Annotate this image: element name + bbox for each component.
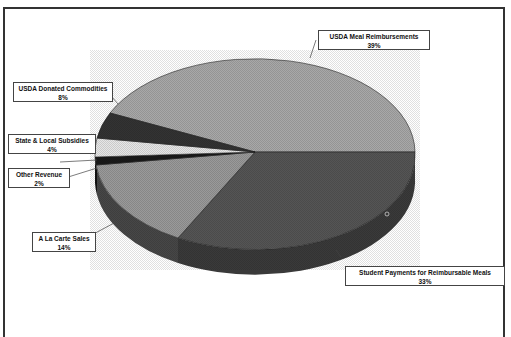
label-a-la-carte-sales: A La Carte Sales 14% xyxy=(32,232,96,252)
label-usda-meal-reimbursements: USDA Meal Reimbursements 39% xyxy=(318,30,430,50)
label-student-payments: Student Payments for Reimbursable Meals … xyxy=(345,266,505,286)
label-pct: 14% xyxy=(33,243,95,252)
label-name: State & Local Subsidies xyxy=(9,136,95,145)
label-pct: 39% xyxy=(319,41,429,50)
label-pct: 8% xyxy=(14,93,112,102)
label-state-local-subsidies: State & Local Subsidies 4% xyxy=(8,134,96,154)
label-pct: 33% xyxy=(346,277,504,286)
label-name: A La Carte Sales xyxy=(33,234,95,243)
label-name: Other Revenue xyxy=(9,170,69,179)
label-name: USDA Donated Commodities xyxy=(14,84,112,93)
label-name: Student Payments for Reimbursable Meals xyxy=(346,268,504,277)
label-pct: 4% xyxy=(9,145,95,154)
label-pct: 2% xyxy=(9,179,69,188)
label-usda-donated-commodities: USDA Donated Commodities 8% xyxy=(13,82,113,102)
label-other-revenue: Other Revenue 2% xyxy=(8,168,70,188)
label-name: USDA Meal Reimbursements xyxy=(319,32,429,41)
